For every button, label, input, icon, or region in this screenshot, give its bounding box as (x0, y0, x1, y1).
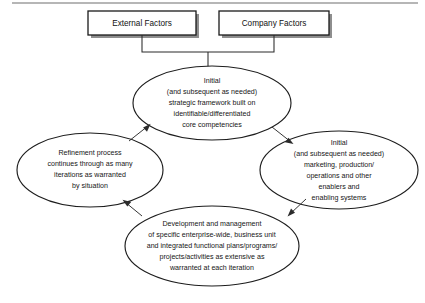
node-enablers-systems-line-5: enablers and (318, 183, 359, 191)
node-strategic-framework-line-2: (and subsequent as needed) (167, 88, 257, 96)
box-company-factors-label: Company Factors (242, 19, 307, 28)
cycle-diagram: External Factors Company Factors Initial… (0, 0, 425, 303)
node-enablers-systems-line-2: (and subsequent as needed) (294, 150, 384, 158)
node-enablers-systems-line-6: enabling systems (312, 194, 367, 202)
box-company-factors[interactable]: Company Factors (219, 11, 332, 38)
node-strategic-framework[interactable]: Initial (and subsequent as needed) strat… (133, 66, 291, 140)
node-refinement-process-line-1: Refinement process (58, 149, 122, 157)
box-external-factors-label: External Factors (112, 19, 172, 28)
node-development-management-line-3: and integrated functional plans/programs… (147, 242, 278, 250)
connector-boxes-to-strategic-framework (142, 35, 274, 68)
node-enablers-systems-line-4: operations and other (306, 172, 372, 180)
arrow-development-to-refinement (123, 200, 143, 216)
node-development-management-line-5: warranted at each iteration (169, 264, 254, 272)
node-enablers-systems[interactable]: Initial (and subsequent as needed) marke… (260, 131, 418, 209)
node-development-management-line-4: projects/activities as extensive as (160, 253, 265, 261)
arrow-refinement-to-strategic-head (143, 124, 151, 132)
diagram-canvas: External Factors Company Factors Initial… (0, 0, 425, 303)
node-refinement-process[interactable]: Refinement process continues through as … (17, 133, 163, 207)
node-development-management-line-1: Development and management (163, 220, 262, 228)
node-development-management[interactable]: Development and management of specific e… (125, 206, 299, 286)
arrow-strategic-to-enablers (272, 127, 294, 144)
node-enablers-systems-line-1: Initial (331, 139, 348, 147)
node-strategic-framework-line-5: core competencies (182, 121, 242, 129)
node-refinement-process-line-2: continues through as many (47, 160, 133, 168)
node-enablers-systems-line-3: marketing, production/ (304, 161, 374, 169)
arrow-refinement-to-strategic (129, 124, 151, 141)
node-strategic-framework-line-4: identifiable/differentiated (174, 110, 251, 118)
node-development-management-line-2: of specific enterprise-wide, business un… (148, 231, 275, 239)
node-strategic-framework-line-1: Initial (204, 77, 221, 85)
node-refinement-process-line-3: iterations as warranted (54, 171, 126, 179)
node-strategic-framework-line-3: strategic framework built on (169, 99, 256, 107)
box-external-factors[interactable]: External Factors (88, 11, 199, 38)
node-refinement-process-line-4: by situation (72, 182, 108, 190)
